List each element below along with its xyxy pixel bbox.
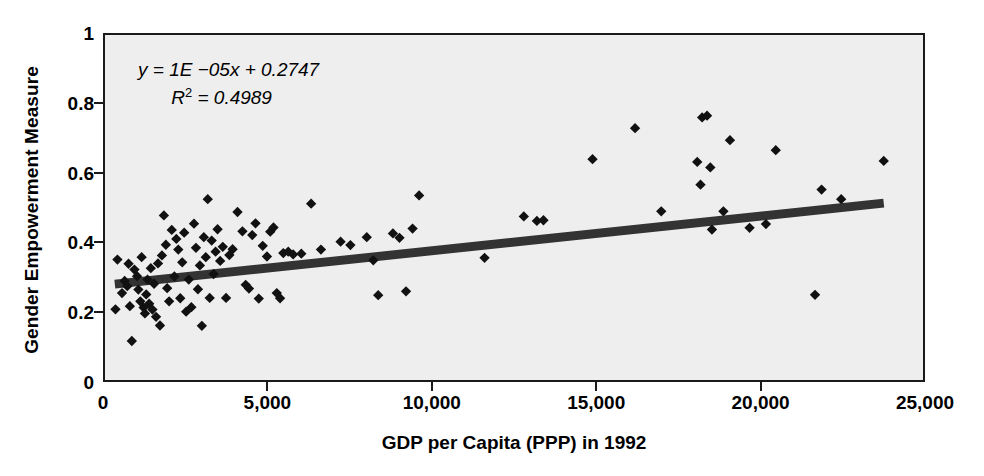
plot-canvas bbox=[105, 35, 923, 380]
data-point bbox=[191, 243, 201, 253]
y-tick-label: 0.4 bbox=[38, 233, 94, 252]
data-point bbox=[205, 293, 215, 303]
data-point bbox=[173, 244, 183, 254]
data-point bbox=[193, 284, 203, 294]
data-point bbox=[362, 232, 372, 242]
data-point bbox=[203, 194, 213, 204]
data-point bbox=[179, 228, 189, 238]
data-point bbox=[110, 304, 120, 314]
data-point bbox=[215, 256, 225, 266]
y-tick-label: 0.2 bbox=[38, 303, 94, 322]
x-tick-mark bbox=[266, 382, 268, 391]
data-point bbox=[771, 145, 781, 155]
x-tick-label: 15,000 bbox=[567, 393, 625, 412]
data-point bbox=[816, 184, 826, 194]
data-point bbox=[161, 240, 171, 250]
x-tick-mark bbox=[760, 382, 762, 391]
data-point bbox=[630, 123, 640, 133]
data-point bbox=[136, 252, 146, 262]
data-point bbox=[401, 286, 411, 296]
data-point bbox=[141, 289, 151, 299]
data-point bbox=[725, 135, 735, 145]
data-point bbox=[171, 234, 181, 244]
y-axis-title: Gender Empowerment Measure bbox=[12, 10, 52, 410]
data-point bbox=[695, 180, 705, 190]
data-point bbox=[167, 225, 177, 235]
data-point bbox=[656, 206, 666, 216]
y-tick-label: 0.8 bbox=[38, 93, 94, 112]
trendline-path bbox=[115, 203, 884, 284]
y-tick-label: 0.6 bbox=[38, 163, 94, 182]
data-point bbox=[177, 257, 187, 267]
y-tick-mark bbox=[94, 241, 103, 243]
y-tick-label: 1 bbox=[38, 24, 94, 43]
y-tick-label: 0 bbox=[38, 373, 94, 392]
data-point bbox=[250, 218, 260, 228]
data-point bbox=[162, 283, 172, 293]
data-point bbox=[262, 251, 272, 261]
data-point bbox=[258, 241, 268, 251]
data-point bbox=[195, 260, 205, 270]
data-point bbox=[212, 224, 222, 234]
y-tick-mark bbox=[94, 172, 103, 174]
x-tick-label: 25,000 bbox=[896, 393, 954, 412]
y-axis-tick-labels: 00.20.40.60.81 bbox=[34, 0, 94, 476]
data-point bbox=[247, 230, 257, 240]
data-points bbox=[110, 111, 889, 347]
data-point bbox=[692, 157, 702, 167]
plot-area bbox=[103, 33, 925, 382]
data-point bbox=[316, 244, 326, 254]
data-point bbox=[744, 223, 754, 233]
data-point bbox=[345, 240, 355, 250]
data-point bbox=[879, 156, 889, 166]
data-point bbox=[221, 293, 231, 303]
data-point bbox=[306, 199, 316, 209]
x-tick-label: 0 bbox=[98, 393, 109, 412]
x-tick-mark bbox=[431, 382, 433, 391]
data-point bbox=[810, 290, 820, 300]
data-point bbox=[155, 320, 165, 330]
data-point bbox=[761, 219, 771, 229]
data-point bbox=[175, 293, 185, 303]
data-point bbox=[519, 211, 529, 221]
x-axis-tick-labels: 05,00010,00015,00020,00025,000 bbox=[0, 393, 984, 421]
data-point bbox=[538, 215, 548, 225]
data-point bbox=[232, 207, 242, 217]
trendline bbox=[115, 203, 884, 284]
data-point bbox=[407, 223, 417, 233]
data-point bbox=[112, 254, 122, 264]
x-tick-label: 20,000 bbox=[732, 393, 790, 412]
data-point bbox=[201, 252, 211, 262]
data-point bbox=[296, 249, 306, 259]
data-point bbox=[373, 290, 383, 300]
data-point bbox=[164, 296, 174, 306]
data-point bbox=[189, 219, 199, 229]
data-point bbox=[159, 210, 169, 220]
data-point bbox=[335, 237, 345, 247]
data-point bbox=[587, 154, 597, 164]
data-point bbox=[414, 190, 424, 200]
y-tick-mark bbox=[94, 311, 103, 313]
data-point bbox=[237, 226, 247, 236]
data-point bbox=[254, 293, 264, 303]
data-point bbox=[705, 162, 715, 172]
data-point bbox=[197, 321, 207, 331]
data-point bbox=[127, 336, 137, 346]
x-axis-title: GDP per Capita (PPP) in 1992 bbox=[103, 432, 925, 454]
data-point bbox=[479, 253, 489, 263]
x-tick-label: 5,000 bbox=[244, 393, 292, 412]
x-tick-label: 10,000 bbox=[403, 393, 461, 412]
data-point bbox=[125, 301, 135, 311]
scatter-chart-figure: Gender Empowerment Measure 00.20.40.60.8… bbox=[0, 0, 984, 476]
data-point bbox=[718, 206, 728, 216]
y-tick-mark bbox=[94, 102, 103, 104]
x-tick-mark bbox=[595, 382, 597, 391]
